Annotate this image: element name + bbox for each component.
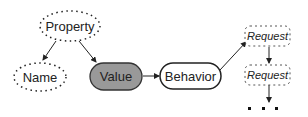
node-label: Request [247,30,289,42]
node-value: Value [90,63,142,90]
edges [43,41,269,102]
edge-property-value [79,41,96,62]
node-label: Name [23,70,58,85]
node-request-1: Request [245,26,290,46]
node-behavior: Behavior [160,63,221,89]
edge-property-name [43,41,56,60]
node-label: Request [247,69,289,81]
node-label: Behavior [165,69,217,84]
diagram-canvas: Property Name Value Behavior Request Req… [0,0,308,117]
ellipsis [248,107,278,110]
edge-behavior-request [220,42,246,70]
node-request-2: Request [245,65,290,85]
node-name: Name [14,63,66,91]
node-property: Property [40,11,100,41]
node-label: Value [100,69,132,84]
node-label: Property [45,19,95,34]
